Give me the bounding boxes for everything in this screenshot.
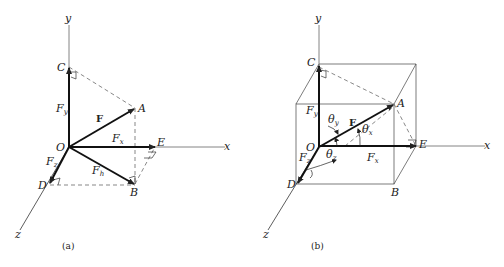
point-O-label: O [306,141,315,154]
point-A-label: A [396,97,405,110]
x-axis-label: x [224,140,231,153]
theta-z-label: θz [326,148,337,162]
vector-Fy-label: Fy [305,104,319,118]
point-E-label: E [418,138,427,151]
panel-a: y x z O C A E B D F Fy Fx Fz Fh (a) [14,12,231,251]
vector-Fh [69,147,134,184]
vector-Fy-label: Fy [55,102,69,116]
panel-b-caption: (b) [311,241,324,251]
z-axis-label: z [262,228,269,241]
vector-F-label: F [349,117,356,128]
point-A-label: A [137,102,146,115]
vector-Fz-label: Fz [45,155,58,169]
point-B-label: B [390,186,399,199]
point-D-label: D [286,178,296,191]
point-O-label: O [56,141,65,154]
z-axis-label: z [14,228,21,241]
theta-x-arc [358,129,360,146]
theta-y-arc [328,126,338,134]
theta-y-label: θy [328,113,340,127]
panel-b: y x z O C A E B D F Fy Fx Fz θy θx θz (b… [262,12,491,251]
vector-Fx-label: Fx [111,132,124,146]
force-components-figure: y x z O C A E B D F Fy Fx Fz Fh (a) [0,0,504,267]
point-C-label: C [307,56,316,69]
vector-Fx-label: Fx [366,151,379,165]
point-E-label: E [156,136,165,149]
point-B-label: B [129,186,138,199]
vector-F-label: F [96,113,103,124]
point-D-label: D [37,179,47,192]
panel-a-caption: (a) [62,241,74,251]
construction-lines [50,67,155,185]
x-axis-label: x [484,139,491,152]
y-axis-label: y [64,12,72,25]
y-axis-label: y [314,12,322,25]
theta-x-label: θx [362,123,373,137]
point-C-label: C [57,61,66,74]
